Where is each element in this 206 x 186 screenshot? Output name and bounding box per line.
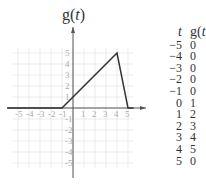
table-row: −50 bbox=[158, 40, 206, 52]
y-tick-label: -2 bbox=[65, 125, 73, 135]
table-row: 34 bbox=[158, 132, 206, 144]
x-tick-label: 1 bbox=[81, 109, 86, 119]
table-header-g: g(t) bbox=[190, 26, 206, 38]
y-axis-label: g(t) bbox=[62, 6, 85, 24]
graph: g(t) -5-4-3-2-112345-5-4-3-2-112345 bbox=[0, 0, 150, 186]
x-tick-label: 3 bbox=[103, 109, 108, 119]
y-tick-label: 3 bbox=[65, 70, 70, 80]
y-tick-label: -3 bbox=[65, 136, 73, 146]
table-row: −20 bbox=[158, 74, 206, 86]
table-row: −40 bbox=[158, 51, 206, 63]
x-tick-label: 4 bbox=[114, 109, 119, 119]
table-header-t: t bbox=[158, 26, 190, 38]
x-tick-label: -5 bbox=[15, 109, 23, 119]
table-row: −30 bbox=[158, 63, 206, 75]
x-axis-arrow bbox=[140, 106, 146, 110]
table-row: 50 bbox=[158, 156, 206, 168]
value-table: t g(t) −50−40−30−20−10011223344550 bbox=[158, 26, 206, 167]
y-tick-label: -5 bbox=[65, 158, 73, 168]
table-row: 12 bbox=[158, 109, 206, 121]
x-tick-label: 2 bbox=[92, 109, 97, 119]
y-tick-label: 4 bbox=[65, 59, 70, 69]
table-row: 23 bbox=[158, 121, 206, 133]
y-tick-label: -4 bbox=[65, 147, 73, 157]
table-row: 45 bbox=[158, 144, 206, 156]
x-tick-label: 5 bbox=[125, 109, 130, 119]
y-tick-label: 2 bbox=[65, 81, 70, 91]
y-tick-label: -1 bbox=[65, 114, 73, 124]
g-curve bbox=[7, 53, 134, 108]
table-row: 01 bbox=[158, 98, 206, 110]
table-row: −10 bbox=[158, 86, 206, 98]
x-tick-label: -4 bbox=[26, 109, 34, 119]
y-tick-label: 5 bbox=[65, 48, 70, 58]
x-tick-label: -3 bbox=[37, 109, 45, 119]
x-tick-label: -2 bbox=[48, 109, 56, 119]
y-axis-arrow bbox=[71, 27, 75, 33]
